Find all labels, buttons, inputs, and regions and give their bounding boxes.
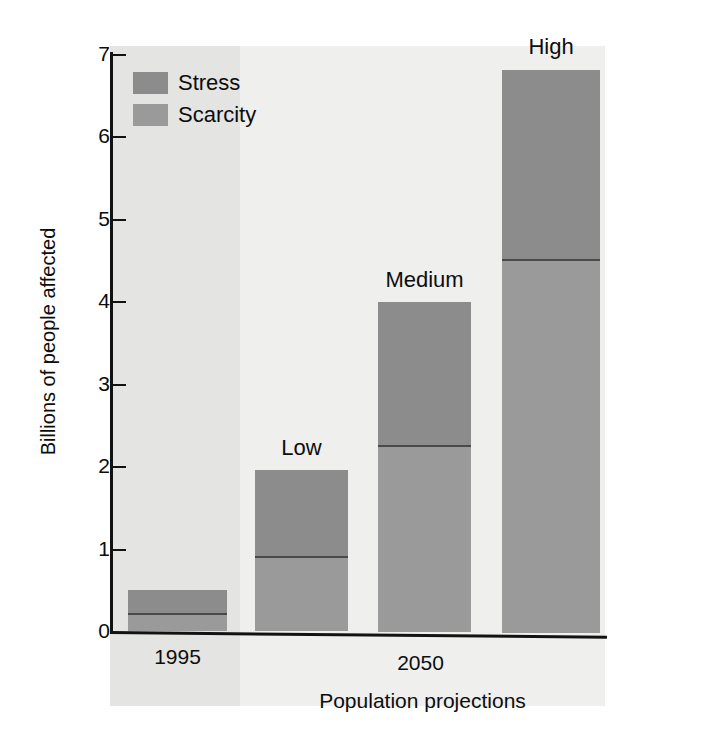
- bar-divider: [255, 556, 348, 558]
- legend-label-stress: Stress: [178, 72, 240, 94]
- legend-item-stress: Stress: [133, 70, 256, 95]
- bar-segment-scarcity: [502, 260, 600, 633]
- bar-segment-stress: [378, 302, 471, 446]
- bar-label-medium: Medium: [378, 269, 471, 291]
- y-tick-label-0: 0: [84, 620, 110, 641]
- bar-segment-scarcity: [128, 614, 227, 631]
- chart-figure: 7 6 5 4 3 2 1 0 Stress Scarcity: [0, 0, 713, 743]
- bar-segment-scarcity: [255, 557, 348, 631]
- legend-label-scarcity: Scarcity: [178, 104, 256, 126]
- plot-band-1995: [110, 46, 240, 681]
- bar-medium: [378, 302, 471, 632]
- bar-label-low: Low: [255, 437, 348, 459]
- y-tick-label-3: 3: [84, 373, 110, 394]
- x-tick-label-1995: 1995: [128, 645, 227, 669]
- x-tick-label-2050: 2050: [371, 651, 470, 675]
- x-axis-title: Population projections: [240, 689, 605, 713]
- y-tick-label-7: 7: [84, 43, 110, 64]
- bar-segment-stress: [502, 70, 600, 260]
- y-tick-label-5: 5: [84, 208, 110, 229]
- legend-swatch-stress-icon: [133, 72, 168, 94]
- bar-1995: [128, 590, 227, 631]
- y-axis-line: [110, 52, 113, 634]
- bar-label-high: High: [502, 36, 600, 58]
- bar-segment-scarcity: [378, 446, 471, 632]
- bar-divider: [128, 613, 227, 615]
- bar-divider: [502, 259, 600, 261]
- y-tick-label-1: 1: [84, 538, 110, 559]
- legend-item-scarcity: Scarcity: [133, 102, 256, 127]
- bar-low: [255, 470, 348, 631]
- bar-divider: [378, 445, 471, 447]
- y-axis-title: Billions of people affected: [37, 192, 60, 492]
- chart-legend: Stress Scarcity: [133, 70, 256, 134]
- y-tick-label-2: 2: [84, 455, 110, 476]
- bar-segment-stress: [128, 590, 227, 614]
- bar-high: [502, 70, 600, 633]
- y-tick-label-6: 6: [84, 125, 110, 146]
- y-tick-label-4: 4: [84, 290, 110, 311]
- legend-swatch-scarcity-icon: [133, 104, 168, 126]
- bar-segment-stress: [255, 470, 348, 557]
